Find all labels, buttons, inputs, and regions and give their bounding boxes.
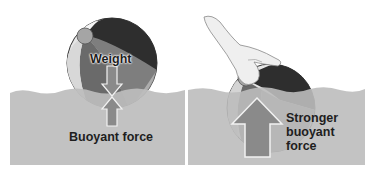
buoyant-force-label: Buoyant force — [69, 130, 153, 144]
weight-label: Weight — [90, 52, 131, 66]
stronger-label: Stronger — [286, 111, 338, 125]
water-left — [10, 88, 185, 165]
force-label: force — [286, 139, 317, 153]
water-right — [188, 87, 365, 165]
buoyant-label: buoyant — [286, 125, 335, 139]
buoyancy-illustration — [0, 0, 376, 177]
